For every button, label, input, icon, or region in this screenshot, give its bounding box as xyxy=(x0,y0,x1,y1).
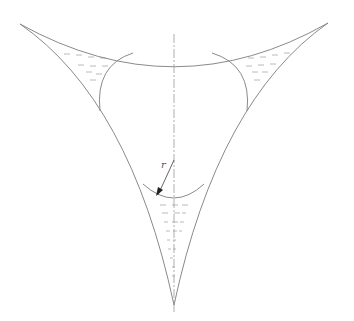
radius-label: r xyxy=(161,159,167,170)
left-arc xyxy=(99,53,133,111)
cusp-geometry-diagram: r xyxy=(0,0,354,321)
hatched-region-top-right xyxy=(246,53,290,80)
hatched-region-top-left xyxy=(64,54,108,80)
right-arc xyxy=(212,53,248,111)
bottom-arc xyxy=(143,184,204,198)
